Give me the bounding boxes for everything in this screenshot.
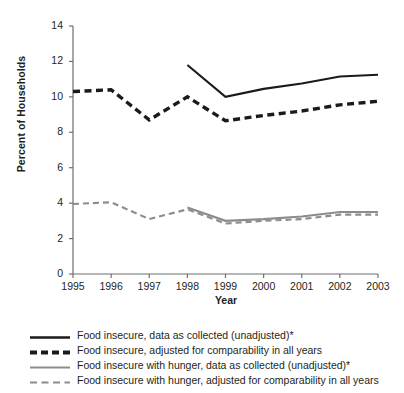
axis-lines — [73, 26, 378, 274]
legend-item[interactable]: Food insecure with hunger, adjusted for … — [30, 372, 400, 387]
x-axis-tick-label: 2001 — [282, 280, 322, 292]
x-axis-tick-label: 2000 — [244, 280, 284, 292]
legend-item-label: Food insecure, data as collected (unadju… — [77, 329, 294, 341]
legend-item-label: Food insecure, adjusted for comparabilit… — [77, 344, 322, 356]
data-series-line — [73, 90, 378, 121]
y-axis-tick-label: 8 — [37, 125, 63, 137]
x-axis-tick-label: 1997 — [129, 280, 169, 292]
chart-legend: Food insecure, data as collected (unadju… — [30, 327, 400, 387]
legend-item[interactable]: Food insecure with hunger, data as colle… — [30, 357, 400, 372]
legend-item[interactable]: Food insecure, adjusted for comparabilit… — [30, 342, 400, 357]
data-series-group — [73, 65, 378, 224]
y-axis-tick-label: 0 — [37, 267, 63, 279]
legend-item-label: Food insecure with hunger, data as colle… — [77, 359, 350, 371]
y-axis-tick-label: 10 — [37, 90, 63, 102]
legend-line-swatch — [30, 329, 70, 340]
legend-line-swatch — [30, 359, 70, 370]
y-axis-title: Percent of Households — [15, 49, 27, 179]
x-axis-tick-label: 1998 — [167, 280, 207, 292]
legend-item[interactable]: Food insecure, data as collected (unadju… — [30, 327, 400, 342]
y-axis-tick-label: 6 — [37, 161, 63, 173]
y-axis-tick-label: 2 — [37, 232, 63, 244]
legend-line-swatch — [30, 374, 70, 385]
x-axis-tick-label: 1995 — [53, 280, 93, 292]
legend-line-swatch — [30, 344, 70, 355]
y-axis-tick-label: 4 — [37, 196, 63, 208]
legend-item-label: Food insecure with hunger, adjusted for … — [77, 374, 379, 386]
data-series-line — [187, 65, 378, 97]
x-axis-tick-label: 2002 — [320, 280, 360, 292]
y-axis-tick-label: 14 — [37, 19, 63, 31]
y-axis-tick-label: 12 — [37, 54, 63, 66]
chart-figure: Percent of Households Year 02468101214 1… — [0, 0, 404, 393]
x-axis-tick-label: 1996 — [91, 280, 131, 292]
x-axis-tick-label: 2003 — [358, 280, 398, 292]
x-axis-tick-label: 1999 — [206, 280, 246, 292]
x-axis-title: Year — [73, 294, 379, 306]
